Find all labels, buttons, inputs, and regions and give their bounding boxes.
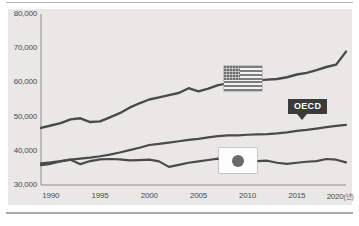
- x-tick-label: 2015: [276, 191, 318, 200]
- oecd-callout-label: OECD: [288, 99, 327, 114]
- y-tick-label: 80,000: [3, 9, 37, 18]
- chart-figure: 30,000 40,000 50,000 60,000 70,000 80,00…: [0, 0, 359, 226]
- y-tick-label: 40,000: [3, 146, 37, 155]
- usa-flag-stripe: [224, 85, 262, 87]
- callout-tail-icon: [297, 114, 307, 120]
- x-tick-label: 1995: [79, 191, 121, 200]
- x-tick-label: 1990: [30, 191, 72, 200]
- usa-flag-stripe: [224, 83, 262, 85]
- y-tick-label: 60,000: [3, 77, 37, 86]
- japan-flag-disc: [232, 155, 244, 167]
- usa-flag-stripe: [224, 87, 262, 89]
- series-line-oecd: [41, 125, 346, 164]
- y-tick-label: 50,000: [3, 112, 37, 121]
- usa-flag-icon: [224, 66, 262, 91]
- japan-flag-icon: [219, 148, 257, 173]
- x-tick-label: 2005: [177, 191, 219, 200]
- x-tick-label: 2020(년): [319, 191, 359, 201]
- series-line-japan: [41, 159, 346, 167]
- oecd-callout-text: OECD: [294, 101, 321, 111]
- y-tick-label: 30,000: [3, 180, 37, 189]
- usa-flag-stripe: [224, 81, 262, 83]
- usa-flag-stripe: [224, 89, 262, 91]
- x-axis-unit-label: (년): [344, 193, 354, 200]
- x-tick-label: 2000: [128, 191, 170, 200]
- usa-flag-stripe: [224, 80, 262, 82]
- x-tick-label: 2010: [227, 191, 269, 200]
- x-tick-label-text: 2020: [327, 192, 344, 201]
- y-tick-label: 70,000: [3, 43, 37, 52]
- usa-flag-canton: [224, 66, 240, 80]
